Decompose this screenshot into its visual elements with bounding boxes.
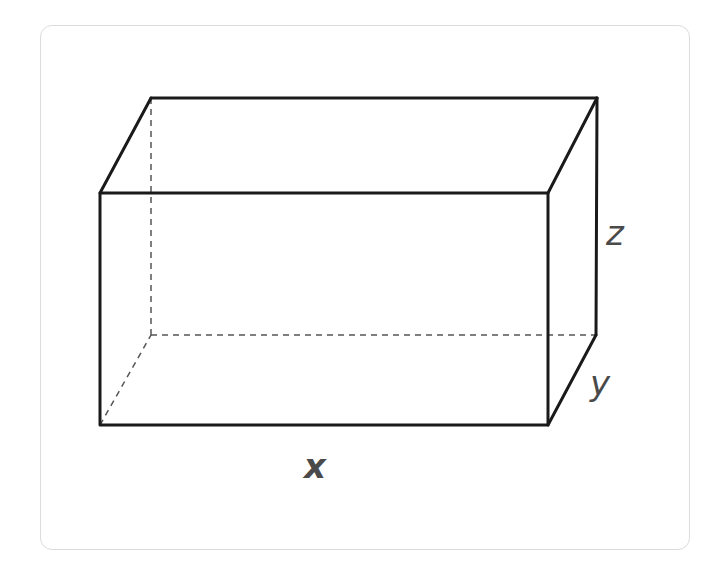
label-z: z xyxy=(605,213,625,253)
hidden-edges xyxy=(100,98,596,425)
edge-back-right-vertical xyxy=(596,98,597,335)
label-x: x xyxy=(302,446,327,486)
front-face xyxy=(100,193,548,425)
label-y: y xyxy=(589,363,611,403)
edge-bottom-right-depth xyxy=(548,335,596,425)
edge-top-left-depth xyxy=(100,98,151,193)
rectangular-prism-diagram: x z y xyxy=(0,0,724,576)
visible-edges xyxy=(100,98,597,425)
edge-top-right-depth xyxy=(548,98,597,193)
hidden-edge-bottom-left-depth xyxy=(100,335,151,425)
